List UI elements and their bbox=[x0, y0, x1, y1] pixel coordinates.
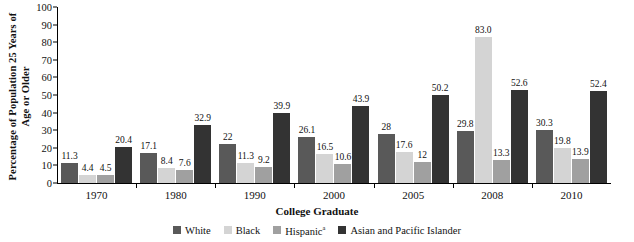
bar[interactable]: 39.9 bbox=[273, 113, 290, 183]
legend-label: Asian and Pacific Islander bbox=[350, 225, 461, 236]
bar[interactable]: 4.4 bbox=[79, 175, 96, 183]
bar-value-label: 4.4 bbox=[82, 163, 94, 174]
bar[interactable]: 7.6 bbox=[176, 170, 193, 183]
bar[interactable]: 30.3 bbox=[536, 130, 553, 183]
legend-item[interactable]: Hispanica bbox=[273, 224, 325, 237]
bar-value-label: 10.6 bbox=[335, 152, 352, 163]
legend-swatch bbox=[173, 226, 181, 234]
x-axis-separator bbox=[453, 183, 454, 188]
bar[interactable]: 52.4 bbox=[590, 91, 607, 183]
bar-value-label: 9.2 bbox=[258, 155, 270, 166]
x-axis-separator bbox=[532, 183, 533, 188]
x-axis-separator bbox=[374, 183, 375, 188]
bar[interactable]: 8.4 bbox=[158, 168, 175, 183]
x-axis-tick-label: 1990 bbox=[215, 189, 294, 205]
bar-value-label: 16.5 bbox=[317, 142, 334, 153]
bar[interactable]: 17.1 bbox=[140, 153, 157, 183]
bar[interactable]: 17.6 bbox=[396, 152, 413, 183]
bar[interactable]: 16.5 bbox=[316, 154, 333, 183]
bar-value-label: 29.8 bbox=[457, 119, 474, 130]
legend-swatch bbox=[338, 226, 346, 234]
bar-group: 30.319.813.952.4 bbox=[532, 7, 611, 183]
bar[interactable]: 11.3 bbox=[61, 163, 78, 183]
bar-value-label: 11.3 bbox=[238, 151, 254, 162]
x-axis-tick-label: 2008 bbox=[453, 189, 532, 205]
bar-group: 26.116.510.643.9 bbox=[294, 7, 373, 183]
legend-swatch bbox=[224, 226, 232, 234]
bar[interactable]: 32.9 bbox=[194, 125, 211, 183]
bar-value-label: 32.9 bbox=[194, 113, 211, 124]
bar-value-label: 8.4 bbox=[161, 156, 173, 167]
bar-value-label: 7.6 bbox=[179, 158, 191, 169]
bar[interactable]: 9.2 bbox=[255, 167, 272, 183]
legend-item[interactable]: White bbox=[173, 225, 211, 236]
x-axis-title: College Graduate bbox=[0, 205, 634, 217]
bar-group: 29.883.013.352.6 bbox=[453, 7, 532, 183]
bar-value-label: 43.9 bbox=[353, 94, 370, 105]
bar-value-label: 83.0 bbox=[475, 25, 492, 36]
bar-value-label: 20.4 bbox=[115, 135, 132, 146]
bar-value-label: 39.9 bbox=[274, 101, 291, 112]
bar[interactable]: 22 bbox=[219, 144, 236, 183]
x-axis-separator bbox=[294, 183, 295, 188]
bar[interactable]: 19.8 bbox=[554, 148, 571, 183]
bar-value-label: 30.3 bbox=[536, 118, 553, 129]
legend-label: Hispanica bbox=[285, 224, 325, 237]
legend-item[interactable]: Asian and Pacific Islander bbox=[338, 225, 461, 236]
chart-legend: WhiteBlackHispanicaAsian and Pacific Isl… bbox=[0, 224, 634, 237]
x-axis-separator bbox=[215, 183, 216, 188]
bar-value-label: 22 bbox=[223, 132, 233, 143]
legend-swatch bbox=[273, 226, 281, 234]
bar[interactable]: 10.6 bbox=[334, 164, 351, 183]
bar[interactable]: 26.1 bbox=[298, 137, 315, 183]
bar-value-label: 4.5 bbox=[100, 163, 112, 174]
bar-value-label: 28 bbox=[381, 122, 391, 133]
x-axis-tick-label: 2005 bbox=[374, 189, 453, 205]
bar-value-label: 17.1 bbox=[140, 141, 157, 152]
legend-label: Black bbox=[236, 225, 261, 236]
bar-group: 11.34.44.520.4 bbox=[57, 7, 136, 183]
bar-chart: Percentage of Population 25 Years of Age… bbox=[0, 0, 634, 242]
x-axis-tick-label: 2010 bbox=[532, 189, 611, 205]
bar-value-label: 52.6 bbox=[511, 78, 528, 89]
bar[interactable]: 83.0 bbox=[475, 37, 492, 183]
bar-value-label: 26.1 bbox=[299, 125, 316, 136]
bar-group: 17.18.47.632.9 bbox=[136, 7, 215, 183]
bar-value-label: 17.6 bbox=[396, 140, 413, 151]
bar-groups: 11.34.44.520.417.18.47.632.92211.39.239.… bbox=[57, 7, 611, 183]
bar-value-label: 13.3 bbox=[493, 148, 510, 159]
bar-value-label: 19.8 bbox=[554, 136, 571, 147]
bar[interactable]: 4.5 bbox=[97, 175, 114, 183]
x-axis-line bbox=[57, 183, 611, 184]
bar[interactable]: 11.3 bbox=[237, 163, 254, 183]
bar[interactable]: 50.2 bbox=[432, 95, 449, 183]
legend-footnote-marker: a bbox=[323, 224, 326, 231]
bar[interactable]: 28 bbox=[378, 134, 395, 183]
x-axis-tick-label: 1980 bbox=[136, 189, 215, 205]
bar-group: 2211.39.239.9 bbox=[215, 7, 294, 183]
bar-value-label: 13.9 bbox=[572, 147, 589, 158]
bar-value-label: 12 bbox=[417, 150, 427, 161]
bar-value-label: 50.2 bbox=[432, 83, 449, 94]
bar[interactable]: 29.8 bbox=[457, 131, 474, 183]
bar-value-label: 11.3 bbox=[61, 151, 77, 162]
y-axis-title: Percentage of Population 25 Years of Age… bbox=[7, 4, 32, 190]
bar-group: 2817.61250.2 bbox=[374, 7, 453, 183]
bar[interactable]: 12 bbox=[414, 162, 431, 183]
bar[interactable]: 13.9 bbox=[572, 159, 589, 183]
bar-value-label: 52.4 bbox=[590, 79, 607, 90]
x-axis-labels: 1970198019902000200520082010 bbox=[57, 189, 611, 205]
legend-item[interactable]: Black bbox=[224, 225, 261, 236]
legend-label: White bbox=[185, 225, 211, 236]
bar[interactable]: 13.3 bbox=[493, 160, 510, 183]
x-axis-tick-label: 2000 bbox=[294, 189, 373, 205]
bar[interactable]: 52.6 bbox=[511, 90, 528, 183]
x-axis-separator bbox=[136, 183, 137, 188]
bar[interactable]: 43.9 bbox=[352, 106, 369, 183]
x-axis-tick-label: 1970 bbox=[57, 189, 136, 205]
bar[interactable]: 20.4 bbox=[115, 147, 132, 183]
